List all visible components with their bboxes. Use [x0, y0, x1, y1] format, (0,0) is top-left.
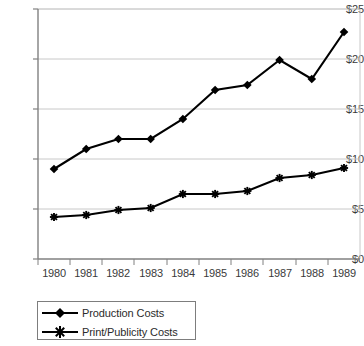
data-point-marker	[211, 190, 219, 198]
data-point-marker	[243, 187, 251, 195]
series-print-publicity-costs	[50, 164, 348, 221]
series-line	[54, 32, 344, 169]
x-axis-tick-label: 1985	[198, 268, 232, 279]
diamond-marker-icon	[38, 305, 82, 321]
series-production-costs	[50, 28, 349, 174]
series-line	[54, 168, 344, 217]
data-point-marker	[50, 213, 58, 221]
plot-area	[0, 0, 364, 346]
x-axis-tick-label: 1982	[101, 268, 135, 279]
data-point-marker	[147, 204, 155, 212]
x-axis-tick-label: 1980	[37, 268, 71, 279]
data-point-marker	[308, 171, 316, 179]
x-axis-tick-label: 1984	[166, 268, 200, 279]
legend-item-print-publicity-costs: Print/Publicity Costs	[38, 322, 197, 341]
legend-item-production-costs: Production Costs	[38, 303, 197, 322]
data-series-layer	[50, 28, 349, 221]
y-axis-ticks	[33, 9, 38, 259]
data-point-marker	[82, 211, 90, 219]
data-point-marker	[179, 190, 187, 198]
x-axis-tick-label: 1983	[134, 268, 168, 279]
line-chart: $25 $20 $15 $10 $5 $0	[0, 0, 364, 346]
legend-label: Print/Publicity Costs	[82, 326, 178, 338]
x-axis-tick-label: 1987	[263, 268, 297, 279]
legend-label: Production Costs	[82, 307, 164, 319]
star-marker-icon	[38, 324, 82, 340]
data-point-marker	[275, 174, 283, 182]
x-axis-tick-label: 1989	[327, 268, 361, 279]
legend: Production Costs Print/Publicity Costs	[37, 301, 196, 340]
data-point-marker	[340, 164, 348, 172]
x-axis-ticks	[38, 259, 328, 265]
data-point-marker	[114, 206, 122, 214]
x-axis-tick-label: 1988	[295, 268, 329, 279]
x-axis-tick-label: 1981	[69, 268, 103, 279]
data-point-marker	[114, 135, 123, 144]
x-axis-tick-label: 1986	[230, 268, 264, 279]
